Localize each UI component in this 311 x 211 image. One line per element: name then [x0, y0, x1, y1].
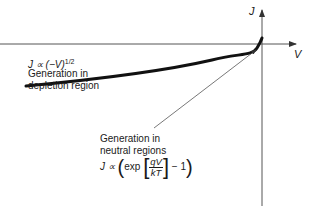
neutral-label-line1: Generation in	[100, 133, 160, 145]
v-axis-label: V	[294, 48, 301, 60]
qv-over-kt-fraction: qVkT	[149, 157, 163, 178]
close-paren: )	[186, 156, 193, 178]
neutral-formula-prefix: J ∝	[100, 161, 115, 172]
exp-label: exp	[124, 161, 140, 172]
depletion-label-line1: Generation in	[28, 68, 88, 80]
depletion-label-line2: depletion region	[28, 80, 99, 92]
depletion-formula-exponent: 1/2	[65, 58, 75, 65]
j-axis-label: J	[249, 5, 255, 17]
neutral-formula-suffix: − 1	[172, 161, 186, 172]
close-bracket: ]	[163, 154, 169, 179]
neutral-formula: J ∝ (exp [qVkT] − 1)	[100, 154, 193, 180]
fraction-denominator: kT	[149, 168, 163, 178]
